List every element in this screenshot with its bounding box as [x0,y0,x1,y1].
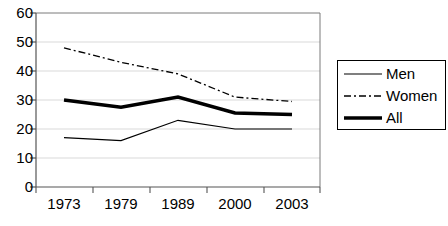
x-tick-1979: 1979 [93,196,149,212]
legend-swatch-women-line [343,89,383,103]
legend-label-women: Women [386,88,437,104]
x-tick-2003: 2003 [264,196,320,212]
legend-item-women: Women [343,85,443,107]
y-tick-40: 40 [3,63,33,78]
y-tick-10: 10 [3,150,33,165]
legend-label-men: Men [386,66,415,82]
x-tick-2000: 2000 [207,196,263,212]
y-axis-labels: 60 50 40 30 20 10 0 [0,0,33,226]
y-tick-0: 0 [3,179,33,194]
y-tick-20: 20 [3,121,33,136]
y-tick-50: 50 [3,34,33,49]
legend-item-men: Men [343,63,443,85]
y-tick-30: 30 [3,92,33,107]
legend-item-all: All [343,107,443,129]
y-tick-60: 60 [3,5,33,20]
chart-legend: Men Women All [337,60,446,130]
x-tick-1989: 1989 [150,196,206,212]
x-axis-ticks [36,187,320,193]
legend-label-all: All [386,110,403,126]
legend-swatch-men-line [343,67,383,81]
x-tick-1973: 1973 [36,196,92,212]
legend-swatch-all-line [343,111,383,125]
chart-container: 60 50 40 30 20 10 0 1973 1979 1989 2000 … [0,0,448,226]
